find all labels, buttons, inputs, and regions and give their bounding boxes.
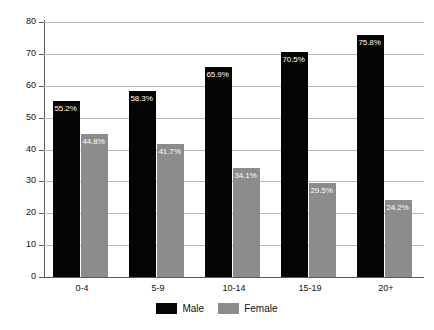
bar-group: 75.8%24.2% [348,22,424,277]
gridline-0 [44,277,424,278]
bar-value-label: 65.9% [207,70,229,79]
y-axis-labels: 01020304050607080 [0,0,36,330]
y-tick-label: 40 [0,145,36,154]
y-tick-mark-10 [39,245,44,246]
x-tick-label: 0-4 [44,283,120,293]
y-tick-mark-50 [39,118,44,119]
y-tick-mark-40 [39,150,44,151]
legend-item-female[interactable]: Female [218,303,277,314]
bar-group: 65.9%34.1% [196,22,272,277]
y-tick-label: 80 [0,17,36,26]
bar-value-label: 70.5% [283,55,305,64]
bar-female[interactable]: 24.2% [385,200,412,277]
y-tick-label: 70 [0,49,36,58]
bar-chart: 01020304050607080 55.2%44.8%58.3%41.7%65… [0,0,434,330]
bar-female[interactable]: 41.7% [157,144,184,277]
y-tick-label: 30 [0,176,36,185]
y-tick-label: 10 [0,240,36,249]
y-tick-label: 60 [0,81,36,90]
legend-label: Female [244,303,277,314]
legend-swatch-female [218,303,239,314]
bar-group: 55.2%44.8% [44,22,120,277]
y-tick-mark-60 [39,86,44,87]
plot-area: 55.2%44.8%58.3%41.7%65.9%34.1%70.5%29.5%… [44,22,424,277]
y-tick-label: 0 [0,272,36,281]
legend-swatch-male [156,303,177,314]
bar-value-label: 41.7% [159,147,181,156]
bar-male[interactable]: 55.2% [53,101,80,277]
x-tick-label: 10-14 [196,283,272,293]
y-tick-mark-30 [39,181,44,182]
bar-group: 58.3%41.7% [120,22,196,277]
x-tick-label: 20+ [348,283,424,293]
bar-group: 70.5%29.5% [272,22,348,277]
y-tick-mark-70 [39,54,44,55]
bar-male[interactable]: 70.5% [281,52,308,277]
y-tick-mark-20 [39,213,44,214]
y-tick-label: 20 [0,208,36,217]
bar-value-label: 44.8% [83,137,105,146]
bar-female[interactable]: 44.8% [81,134,108,277]
chart-legend: MaleFemale [0,303,434,314]
bar-male[interactable]: 75.8% [357,35,384,277]
x-tick-label: 15-19 [272,283,348,293]
bar-value-label: 29.5% [311,186,333,195]
bar-value-label: 75.8% [359,38,381,47]
x-tick-label: 5-9 [120,283,196,293]
bar-value-label: 24.2% [387,203,409,212]
bar-male[interactable]: 65.9% [205,67,232,277]
y-tick-mark-80 [39,22,44,23]
bar-female[interactable]: 34.1% [233,168,260,277]
bar-value-label: 55.2% [55,104,77,113]
y-tick-mark-0 [39,277,44,278]
bar-male[interactable]: 58.3% [129,91,156,277]
bar-female[interactable]: 29.5% [309,183,336,277]
bar-value-label: 34.1% [235,171,257,180]
legend-item-male[interactable]: Male [156,303,204,314]
legend-label: Male [182,303,204,314]
y-tick-label: 50 [0,113,36,122]
bar-value-label: 58.3% [131,94,153,103]
